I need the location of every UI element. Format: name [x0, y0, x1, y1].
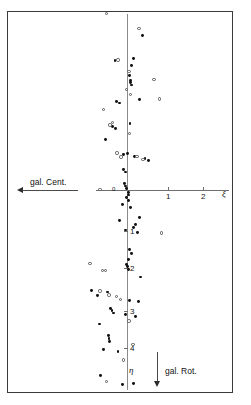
- y-tick-label-2: 2: [130, 265, 134, 273]
- gal-rotation-label: gal. Rot.: [165, 367, 197, 376]
- data-point-filled: [118, 219, 121, 222]
- data-point-filled: [137, 300, 140, 303]
- y-tick-4: [124, 348, 128, 349]
- data-point-open: [128, 132, 131, 135]
- data-point-filled: [130, 84, 133, 87]
- data-point-open: [98, 289, 101, 292]
- data-point-open: [131, 343, 134, 346]
- data-point-filled: [108, 340, 111, 343]
- data-point-open: [141, 158, 144, 161]
- data-point-open: [127, 319, 130, 322]
- data-point-filled: [117, 350, 120, 353]
- data-point-filled: [134, 315, 137, 318]
- data-point-open: [102, 108, 105, 111]
- x-axis-line: [96, 190, 229, 191]
- x-tick-label-2: 2: [201, 193, 205, 201]
- y-axis-symbol: η: [129, 366, 133, 375]
- data-point-filled: [124, 171, 127, 174]
- data-point-filled: [132, 382, 135, 385]
- data-point-filled: [121, 383, 124, 386]
- data-point-filled: [104, 138, 107, 141]
- data-point-filled: [129, 206, 132, 209]
- data-point-filled: [114, 127, 117, 130]
- y-tick-3: [124, 311, 128, 312]
- data-point-filled: [124, 313, 127, 316]
- y-tick-label-4: 4: [130, 345, 134, 353]
- data-point-open: [115, 295, 118, 298]
- figure-canvas: 1 2 ξ 0 1 2 3 4 η gal. Cent. gal. Rot.: [0, 0, 251, 405]
- origin-label: 0: [112, 185, 115, 193]
- data-point-open: [127, 70, 130, 73]
- data-point-filled: [128, 299, 131, 302]
- data-point-open: [104, 269, 107, 272]
- x-tick-label-1: 1: [166, 193, 170, 201]
- data-point-filled: [138, 216, 141, 219]
- data-point-open: [152, 78, 155, 81]
- x-tick-2: [203, 187, 204, 191]
- data-point-filled: [132, 57, 135, 60]
- data-point-open: [137, 27, 140, 30]
- data-point-filled: [138, 98, 141, 101]
- data-point-open: [116, 58, 119, 61]
- data-point-filled: [127, 268, 130, 271]
- data-point-filled: [96, 294, 99, 297]
- data-point-filled: [139, 276, 142, 279]
- data-point-open: [98, 188, 101, 191]
- gal-center-label: gal. Cent.: [30, 178, 66, 187]
- x-tick-1: [168, 187, 169, 191]
- data-point-open: [122, 358, 125, 361]
- data-point-open: [119, 298, 122, 301]
- data-point-filled: [128, 74, 131, 77]
- data-point-filled: [126, 152, 129, 155]
- data-point-filled: [102, 348, 105, 351]
- data-point-filled: [130, 252, 133, 255]
- y-tick-label-1: 1: [130, 228, 134, 236]
- gal-center-arrow-line: [22, 190, 78, 191]
- data-point-filled: [136, 231, 139, 234]
- data-point-filled: [129, 122, 132, 125]
- data-point-filled: [127, 258, 130, 261]
- data-point-open: [108, 123, 111, 126]
- data-point-open: [135, 155, 138, 158]
- data-point-filled: [98, 323, 101, 326]
- data-point-filled: [127, 199, 130, 202]
- data-point-open: [158, 97, 161, 100]
- data-point-filled: [128, 248, 131, 251]
- data-point-open: [105, 380, 108, 383]
- data-point-filled: [141, 34, 144, 37]
- data-point-open: [107, 293, 110, 296]
- data-point-filled: [125, 187, 128, 190]
- gal-rotation-arrowhead-icon: [154, 381, 160, 387]
- data-point-filled: [132, 226, 135, 229]
- data-point-filled: [112, 312, 115, 315]
- data-point-open: [160, 231, 163, 234]
- data-point-filled: [118, 102, 121, 105]
- x-axis-symbol: ξ: [222, 190, 226, 199]
- scatter-plot: 1 2 ξ 0 1 2 3 4 η gal. Cent. gal. Rot.: [0, 0, 251, 405]
- data-point-open: [119, 155, 122, 158]
- data-point-filled: [121, 203, 124, 206]
- data-point-filled: [90, 289, 93, 292]
- data-point-filled: [99, 374, 102, 377]
- data-point-filled: [124, 229, 127, 232]
- data-point-filled: [147, 159, 150, 162]
- y-tick-1: [124, 231, 128, 232]
- data-point-open: [115, 151, 118, 154]
- data-point-open: [88, 262, 91, 265]
- data-point-open: [129, 93, 132, 96]
- gal-rotation-arrow-line: [157, 352, 158, 383]
- data-point-open: [105, 12, 108, 15]
- data-point-filled: [130, 64, 133, 67]
